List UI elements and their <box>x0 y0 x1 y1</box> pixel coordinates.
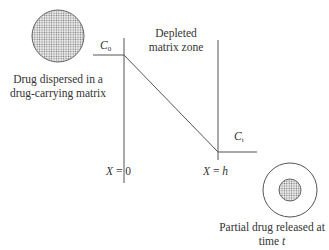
xh-label: X = h <box>203 164 228 178</box>
concentration-gradient-line <box>124 55 218 152</box>
released-label-line1: Partial drug released at <box>212 220 329 234</box>
xh-h: h <box>222 165 228 177</box>
depleted-zone-label: Depleted matrix zone <box>136 26 216 54</box>
released-time-prefix: time <box>259 235 282 247</box>
ct-sub: t <box>242 136 244 144</box>
ct-label: Ct <box>234 129 244 147</box>
ct-var: C <box>234 130 242 142</box>
c0-sub: 0 <box>108 45 112 53</box>
xh-var: X <box>203 165 210 177</box>
dispersed-drug-label: Drug dispersed in a drug-carrying matrix <box>8 72 108 100</box>
x0-rest: = 0 <box>113 165 131 177</box>
x0-label: X = 0 <box>106 164 131 178</box>
released-time-var: t <box>282 235 285 247</box>
released-drug-label: Partial drug released at time t <box>212 220 329 248</box>
drug-matrix-sphere <box>32 10 84 62</box>
x0-var: X <box>106 165 113 177</box>
dispersed-label-line1: Drug dispersed in a <box>8 72 108 86</box>
remaining-drug-core <box>279 179 301 201</box>
xh-eq: = <box>210 165 222 177</box>
c0-var: C <box>100 39 108 51</box>
dispersed-label-line2: drug-carrying matrix <box>8 86 108 100</box>
c0-label: C0 <box>100 38 111 56</box>
released-label-line2: time t <box>212 234 329 248</box>
depleted-label-line1: Depleted <box>136 26 216 40</box>
depleted-label-line2: matrix zone <box>136 40 216 54</box>
